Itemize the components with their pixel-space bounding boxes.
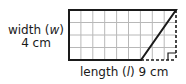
- grid: [69, 10, 176, 60]
- width-value: 4 cm: [4, 37, 68, 50]
- width-label: width (w) 4 cm: [4, 24, 68, 50]
- right-angle-marker: [168, 53, 176, 60]
- length-value: 9 cm: [139, 65, 169, 79]
- length-label: length (l) 9 cm: [80, 66, 168, 79]
